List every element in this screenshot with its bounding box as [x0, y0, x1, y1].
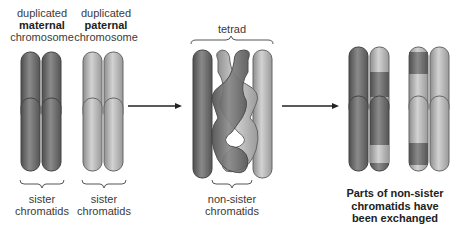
label-line: chromosome: [68, 31, 144, 43]
nonsister-chromatids-label: non-sister chromatids: [192, 193, 272, 217]
arrow-icon: [128, 103, 182, 109]
recombined-paternal-chromosome: [409, 47, 449, 171]
sister-brace-1: [20, 180, 64, 188]
tetrad: [193, 50, 272, 178]
nonsister-brace: [212, 180, 252, 188]
label-line: chromatids have: [335, 200, 455, 213]
label-line: paternal: [85, 19, 128, 31]
label-line: duplicated: [68, 7, 144, 19]
arrow-icon: [282, 103, 339, 109]
label-line: non-sister: [192, 193, 272, 205]
paternal-label: duplicated paternal chromosome: [68, 7, 144, 43]
label-line: chromatids: [66, 205, 142, 217]
recombined-maternal-chromosome: [349, 47, 389, 171]
label-line: been exchanged: [335, 212, 455, 225]
sister-chromatids-label-2: sister chromatids: [66, 193, 142, 217]
maternal-chromosome: [21, 52, 61, 171]
tetrad-brace: [191, 36, 273, 44]
result-caption: Parts of non-sister chromatids have been…: [335, 187, 455, 225]
sister-brace-2: [82, 180, 126, 188]
tetrad-label: tetrad: [205, 23, 259, 35]
paternal-chromosome: [83, 52, 123, 171]
label-line: Parts of non-sister: [335, 187, 455, 200]
label-line: sister: [66, 193, 142, 205]
label-line: chromatids: [192, 205, 272, 217]
label-line: maternal: [19, 19, 65, 31]
